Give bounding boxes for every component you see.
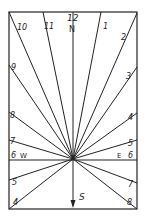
south-arrow-icon bbox=[71, 200, 76, 208]
hour-line-7 bbox=[9, 140, 73, 159]
hour-label-8: 8 bbox=[127, 198, 132, 207]
hour-line-8 bbox=[9, 112, 73, 159]
sundial-svg: 1011129384755748 12 N 6 W E 6 S bbox=[0, 0, 147, 222]
label-west-six: 6 bbox=[11, 151, 16, 160]
label-east-six: 6 bbox=[128, 151, 133, 160]
hour-label-11: 11 bbox=[44, 22, 54, 31]
hour-line-1 bbox=[73, 12, 101, 159]
hour-label-9: 9 bbox=[11, 63, 16, 72]
hour-label-8: 8 bbox=[10, 111, 15, 120]
hour-label-5: 5 bbox=[12, 178, 17, 187]
hour-label-10: 10 bbox=[17, 23, 27, 32]
hour-line-5 bbox=[9, 159, 73, 180]
hour-line-2 bbox=[73, 13, 137, 159]
hour-label-3: 3 bbox=[126, 72, 131, 81]
hour-label-4: 4 bbox=[128, 113, 133, 122]
label-noon: 12 bbox=[67, 13, 79, 23]
hour-label-4: 4 bbox=[13, 198, 18, 207]
hour-label-1: 1 bbox=[103, 22, 108, 31]
label-south: S bbox=[79, 192, 85, 202]
label-west: W bbox=[20, 152, 27, 160]
hour-label-5: 5 bbox=[128, 139, 133, 148]
label-north: N bbox=[69, 25, 75, 34]
hour-labels: 1011129384755748 bbox=[10, 22, 134, 207]
label-east: E bbox=[117, 152, 121, 160]
sundial-diagram: 1011129384755748 12 N 6 W E 6 S bbox=[0, 0, 147, 222]
hour-line-10 bbox=[9, 12, 73, 159]
hour-line-4 bbox=[9, 159, 73, 209]
hour-label-2: 2 bbox=[121, 33, 126, 42]
